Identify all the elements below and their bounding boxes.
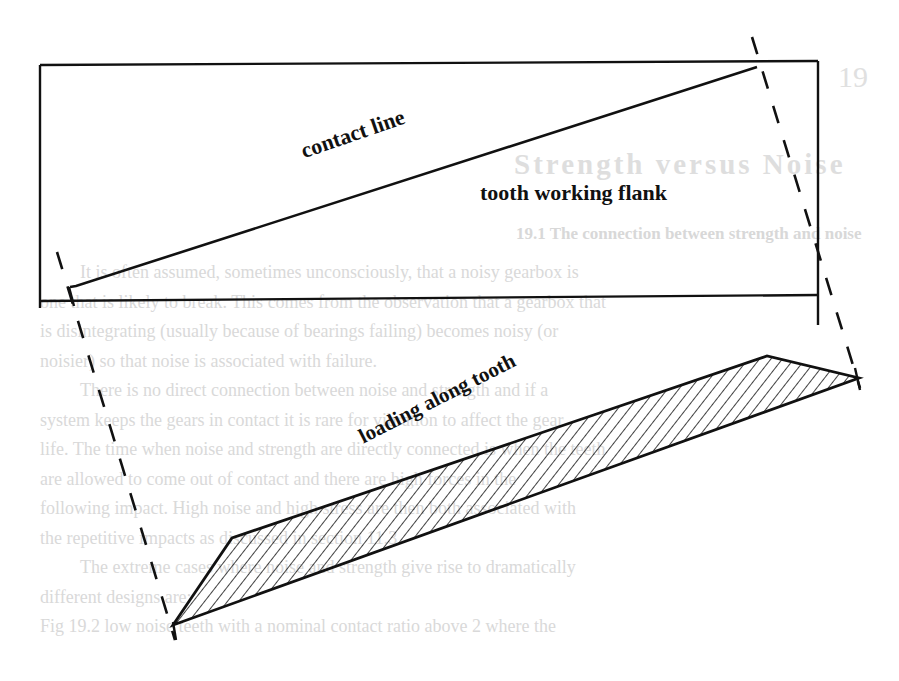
right-projection-dashed-line	[752, 37, 860, 388]
contact-line	[70, 67, 757, 287]
flank-bottom-edge	[40, 295, 818, 301]
tooth-working-flank-label: tooth working flank	[480, 180, 667, 206]
load-distribution-hatched-area	[173, 356, 859, 625]
tooth-loading-diagram	[0, 0, 899, 681]
tooth-flank-rectangle	[40, 61, 818, 325]
left-projection-dashed-line	[57, 252, 175, 640]
flank-top-edge	[40, 61, 818, 65]
